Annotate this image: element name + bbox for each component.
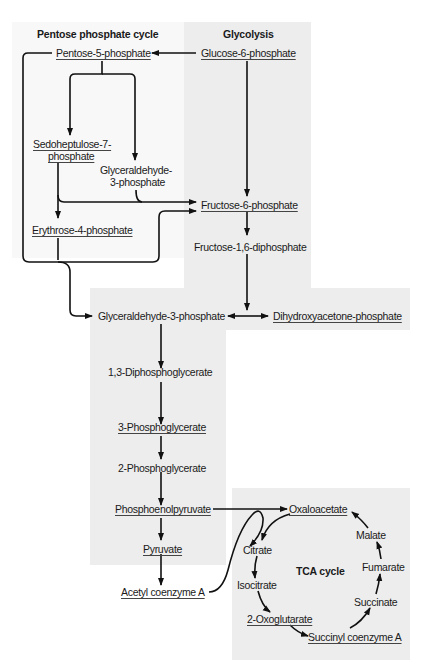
node-glucose-6-phosphate: Glucose-6-phosphate [201, 47, 296, 59]
node-oxaloacetate: Oxaloacetate [289, 503, 347, 515]
node-fumarate: Fumarate [362, 561, 405, 573]
node-glyceraldehyde-3-phosphate-pentose-line2: 3-phosphate [110, 176, 165, 188]
node-sedoheptulose-7-phosphate-line1: Sedoheptulose-7- [33, 138, 111, 150]
node-glyceraldehyde-3-phosphate: Glyceraldehyde-3-phosphate [98, 310, 225, 322]
node-isocitrate: Isocitrate [237, 579, 277, 591]
tca-cycle-title: TCA cycle [296, 565, 345, 577]
node-dihydroxyacetone-phosphate: Dihydroxyacetone-phosphate [273, 310, 402, 322]
node-pentose-5-phosphate: Pentose-5-phosphate [56, 47, 151, 59]
glycolysis-title: Glycolysis [223, 28, 274, 40]
node-malate: Malate [356, 529, 386, 541]
pentose-cycle-title: Pentose phosphate cycle [37, 28, 158, 40]
node-fructose-6-phosphate: Fructose-6-phosphate [201, 199, 298, 211]
node-glyceraldehyde-3-phosphate-pentose-line1: Glyceraldehyde- [100, 164, 172, 176]
node-succinyl-coenzyme-a: Succinyl coenzyme A [308, 631, 402, 643]
node-acetyl-coenzyme-a: Acetyl coenzyme A [121, 586, 205, 598]
node-3-phosphoglycerate: 3-Phosphoglycerate [118, 421, 206, 433]
node-succinate: Succinate [354, 596, 397, 608]
node-sedoheptulose-7-phosphate-line2: phosphate [48, 150, 94, 162]
node-erythrose-4-phosphate: Erythrose-4-phosphate [32, 224, 133, 236]
node-1-3-diphosphoglycerate: 1,3-Diphosphoglycerate [108, 366, 212, 378]
node-phosphoenolpyruvate: Phosphoenolpyruvate [115, 503, 211, 515]
node-citrate: Citrate [243, 544, 272, 556]
node-2-oxoglutarate: 2-Oxoglutarate [247, 613, 312, 625]
node-2-phosphoglycerate: 2-Phosphoglycerate [118, 462, 206, 474]
node-fructose-1-6-diphosphate: Fructose-1,6-diphosphate [194, 241, 306, 253]
node-pyruvate: Pyruvate [143, 543, 182, 555]
